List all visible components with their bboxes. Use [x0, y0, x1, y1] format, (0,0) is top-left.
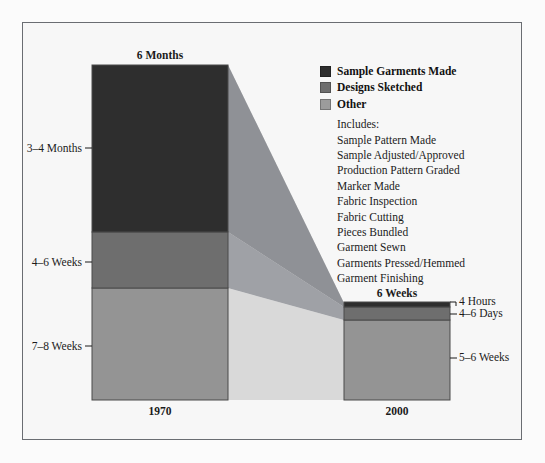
includes-item: Garment Sewn: [337, 240, 516, 255]
includes-item: Pieces Bundled: [337, 225, 516, 240]
right-tick-4-hours: [450, 302, 456, 306]
includes-item: Production Pattern Graded: [337, 163, 516, 178]
left-axis-label-1: 3–4 Months: [0, 143, 82, 155]
legend-label-sample-garments-made: Sample Garments Made: [337, 64, 456, 78]
legend-label-designs-sketched: Designs Sketched: [337, 80, 422, 94]
left-axis-label-2: 4–6 Weeks: [0, 257, 82, 269]
bar-1970-segment-other[interactable]: [92, 288, 228, 400]
bar-1970-total-label: 6 Months: [92, 50, 228, 62]
includes-item: Sample Adjusted/Approved: [337, 148, 516, 163]
chart-screenshot: 3–4 Months 4–6 Weeks 7–8 Weeks 4 Hours 4…: [0, 0, 545, 463]
legend-swatch-icon-light: [320, 99, 331, 110]
includes-item: Garments Pressed/Hemmed: [337, 256, 516, 271]
legend-label-other: Other: [337, 97, 366, 111]
legend-item-designs-sketched[interactable]: Designs Sketched: [320, 80, 516, 94]
includes-item: Fabric Inspection: [337, 194, 516, 209]
bar-2000-segment-sample-garments[interactable]: [344, 302, 450, 307]
legend-item-other[interactable]: Other: [320, 97, 516, 111]
legend-item-sample-garments-made[interactable]: Sample Garments Made: [320, 64, 516, 78]
includes-heading: Includes:: [337, 117, 516, 132]
right-axis-label-5-6-weeks: 5–6 Weeks: [459, 352, 509, 364]
bar-1970-segment-sample-garments[interactable]: [92, 65, 228, 232]
right-axis-label-4-6-days: 4–6 Days: [459, 308, 503, 320]
chart-legend: Sample Garments Made Designs Sketched Ot…: [320, 64, 516, 287]
bar-2000-segment-other[interactable]: [344, 320, 450, 400]
legend-swatch-icon-mid: [320, 82, 331, 93]
category-label-1970: 1970: [92, 406, 228, 418]
right-axis-label-4-hours: 4 Hours: [459, 296, 496, 308]
includes-item: Fabric Cutting: [337, 210, 516, 225]
includes-item: Sample Pattern Made: [337, 133, 516, 148]
includes-item: Garment Finishing: [337, 271, 516, 286]
bar-2000-total-label: 6 Weeks: [344, 288, 450, 300]
legend-includes-block: Includes: Sample Pattern Made Sample Adj…: [337, 117, 516, 286]
bar-1970-segment-designs-sketched[interactable]: [92, 232, 228, 288]
bar-2000-segment-designs-sketched[interactable]: [344, 307, 450, 320]
includes-item: Marker Made: [337, 179, 516, 194]
category-label-2000: 2000: [344, 406, 450, 418]
left-axis-label-3: 7–8 Weeks: [0, 341, 82, 353]
legend-swatch-icon-dark: [320, 66, 331, 77]
